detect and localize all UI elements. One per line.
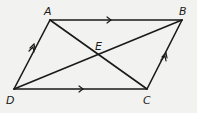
diagonal-db bbox=[14, 20, 182, 89]
vertex-label-d: D bbox=[6, 94, 14, 107]
side-da bbox=[14, 20, 50, 89]
vertex-label-a: A bbox=[43, 5, 52, 18]
double-parallel-arrow-icon bbox=[161, 53, 167, 61]
vertex-label-b: B bbox=[179, 5, 187, 18]
vertex-label-c: C bbox=[143, 94, 151, 107]
parallelogram-diagram: A B C D E bbox=[0, 0, 197, 113]
intersection-label-e: E bbox=[95, 40, 102, 53]
double-parallel-arrow-icon bbox=[29, 44, 35, 52]
